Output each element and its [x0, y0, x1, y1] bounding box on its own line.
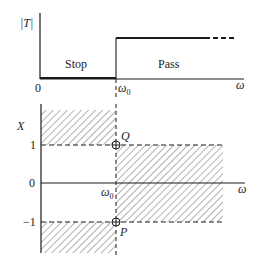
filter-diagram: |T| 0 Stop Pass ω0 ω X 1 0 −1 Q P ω0 — [0, 0, 259, 267]
pass-region-label: Pass — [158, 57, 180, 71]
stop-region-label: Stop — [65, 57, 87, 71]
tick-label-minus-one: −1 — [23, 215, 36, 229]
top-y-axis-label: |T| — [20, 16, 33, 30]
bottom-cutoff-label: ω0 — [101, 185, 113, 201]
point-p-label: P — [119, 225, 128, 239]
tick-label-zero: 0 — [29, 176, 35, 190]
tick-label-plus-one: 1 — [30, 138, 36, 152]
bottom-plot: X 1 0 −1 Q P ω0 ω — [16, 104, 246, 255]
top-plot: |T| 0 Stop Pass ω0 ω — [20, 13, 244, 100]
point-q-label: Q — [121, 129, 130, 143]
hatch-region-upper-left — [41, 110, 116, 145]
bottom-y-axis-label: X — [16, 119, 25, 133]
point-q-marker — [112, 141, 120, 149]
top-x-axis-label: ω — [236, 78, 244, 92]
top-origin-label: 0 — [35, 81, 41, 95]
hatch-region-lower-left — [41, 222, 116, 253]
point-p-marker — [112, 218, 120, 226]
top-cutoff-label: ω0 — [118, 81, 130, 97]
bottom-x-axis-label: ω — [238, 182, 246, 196]
